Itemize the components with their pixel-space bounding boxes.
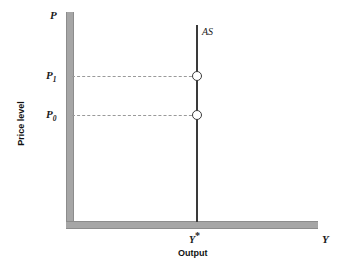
equilibrium-point-p1: [192, 71, 202, 81]
ytick-label-p1: P1: [46, 70, 56, 84]
xtick-label-ystar-asterisk: *: [195, 230, 200, 241]
y-axis-variable-label: P: [50, 10, 57, 21]
ytick-label-p1-base: P: [46, 69, 53, 81]
x-axis-variable-label: Y: [322, 234, 329, 245]
x-axis: [66, 221, 318, 229]
y-axis: [66, 12, 74, 227]
y-axis-title: Price level: [17, 94, 26, 154]
x-axis-title: Output: [178, 249, 208, 258]
ytick-label-p0: P0: [46, 109, 56, 123]
ytick-label-p1-subscript: 1: [53, 75, 57, 84]
ytick-label-p0-subscript: 0: [53, 114, 57, 123]
as-curve: [196, 25, 198, 222]
xtick-label-ystar: Y*: [189, 231, 200, 245]
equilibrium-point-p0: [192, 110, 202, 120]
ytick-label-p0-base: P: [46, 108, 53, 120]
as-curve-label: AS: [202, 27, 213, 37]
guide-line-p0: [72, 115, 197, 116]
aggregate-supply-diagram: P Y AS P1 P0 Y* Output Price level: [0, 0, 341, 273]
guide-line-p1: [72, 76, 197, 77]
